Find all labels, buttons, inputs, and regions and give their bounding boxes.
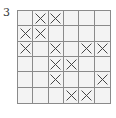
x-mark-icon [97, 43, 108, 54]
grid-cell-r1-c3 [49, 11, 64, 26]
x-mark-icon [35, 28, 46, 39]
grid-cell-r2-c3 [49, 26, 64, 41]
grid-cell-r5-c3 [49, 72, 64, 87]
x-mark-icon [50, 43, 61, 54]
x-mark-icon [66, 90, 77, 101]
grid-cell-r3-c4 [64, 42, 79, 57]
grid-cell-r4-c4 [64, 57, 79, 72]
grid-cell-r5-c6 [95, 72, 110, 87]
grid-cell-r2-c6 [95, 26, 110, 41]
grid-cell-r6-c6 [95, 88, 110, 103]
grid-cell-r5-c5 [79, 72, 94, 87]
grid-cell-r1-c6 [95, 11, 110, 26]
x-mark-icon [35, 13, 46, 24]
grid-cell-r6-c2 [33, 88, 48, 103]
grid-cell-r4-c5 [79, 57, 94, 72]
mark-grid [17, 10, 111, 104]
grid-cell-r4-c1 [18, 57, 33, 72]
grid-cell-r4-c2 [33, 57, 48, 72]
grid-cell-r1-c5 [79, 11, 94, 26]
grid-cell-r6-c3 [49, 88, 64, 103]
grid-cell-r3-c3 [49, 42, 64, 57]
grid-cell-r4-c3 [49, 57, 64, 72]
grid-cell-r2-c5 [79, 26, 94, 41]
grid-cell-r5-c4 [64, 72, 79, 87]
x-mark-icon [50, 13, 61, 24]
x-mark-icon [97, 74, 108, 85]
grid-cell-r3-c6 [95, 42, 110, 57]
grid-cell-r1-c1 [18, 11, 33, 26]
grid-cell-r3-c1 [18, 42, 33, 57]
x-mark-icon [20, 28, 31, 39]
grid-cell-r2-c4 [64, 26, 79, 41]
x-mark-icon [81, 90, 92, 101]
x-mark-icon [50, 74, 61, 85]
grid-cell-r4-c6 [95, 57, 110, 72]
grid-cell-r2-c2 [33, 26, 48, 41]
grid-cell-r2-c1 [18, 26, 33, 41]
grid-cell-r3-c2 [33, 42, 48, 57]
grid-cell-r5-c1 [18, 72, 33, 87]
grid-cell-r3-c5 [79, 42, 94, 57]
grid-cell-r5-c2 [33, 72, 48, 87]
x-mark-icon [66, 59, 77, 70]
grid-cell-r1-c2 [33, 11, 48, 26]
grid-cell-r6-c5 [79, 88, 94, 103]
puzzle-number-label: 3 [3, 6, 10, 19]
x-mark-icon [20, 43, 31, 54]
grid-cell-r6-c1 [18, 88, 33, 103]
x-mark-icon [50, 59, 61, 70]
x-mark-icon [81, 43, 92, 54]
grid-cell-r6-c4 [64, 88, 79, 103]
grid-cell-r1-c4 [64, 11, 79, 26]
